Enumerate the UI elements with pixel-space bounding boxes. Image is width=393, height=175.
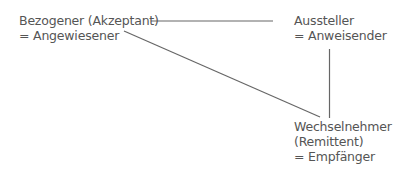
node-aussteller-line-2: = Anweisender: [294, 28, 387, 43]
node-aussteller: Aussteller = Anweisender: [294, 13, 387, 43]
node-wechselnehmer-line-1: Wechselnehmer: [294, 119, 392, 134]
node-bezogener: Bezogener (Akzeptant) = Angewiesener: [19, 13, 159, 43]
node-wechselnehmer-line-2: (Remittent): [294, 134, 392, 149]
node-wechselnehmer-line-3: = Empfänger: [294, 149, 392, 164]
node-bezogener-line-1: Bezogener (Akzeptant): [19, 13, 159, 28]
edge-bezogener-wechselnehmer: [124, 31, 320, 117]
node-bezogener-line-2: = Angewiesener: [19, 28, 159, 43]
node-aussteller-line-1: Aussteller: [294, 13, 387, 28]
node-wechselnehmer: Wechselnehmer (Remittent) = Empfänger: [294, 119, 392, 164]
